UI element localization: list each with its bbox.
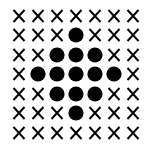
grid-cell-r4-c3[interactable] [66,84,85,104]
grid-cell-r0-c4[interactable] [85,6,104,26]
cross-icon [106,8,122,24]
grid-cell-r2-c2[interactable] [47,45,66,65]
cross-icon [106,125,122,141]
grid-cell-r1-c0[interactable] [9,26,28,46]
cross-icon [125,105,141,121]
grid-cell-r5-c4[interactable] [85,104,104,124]
cross-icon [87,27,103,43]
grid-cell-r1-c1[interactable] [28,26,47,46]
grid-cell-r3-c0[interactable] [9,65,28,85]
grid-cell-r6-c4[interactable] [85,123,104,143]
grid-cell-r1-c4[interactable] [85,26,104,46]
dot-icon [106,66,122,82]
grid-cell-r2-c6[interactable] [123,45,142,65]
grid-cell-r6-c3[interactable] [66,123,85,143]
grid-cell-r6-c2[interactable] [47,123,66,143]
grid-cell-r2-c1[interactable] [28,45,47,65]
grid-cell-r1-c5[interactable] [104,26,123,46]
cross-icon [87,8,103,24]
cross-icon [125,66,141,82]
dot-icon [68,47,84,63]
cross-icon [125,8,141,24]
dot-icon [87,86,103,102]
cross-icon [49,27,65,43]
cross-icon [11,66,27,82]
grid-cell-r3-c4[interactable] [85,65,104,85]
grid-cell-r6-c1[interactable] [28,123,47,143]
dot-icon [49,66,65,82]
cross-icon [30,47,46,63]
cross-icon [30,105,46,121]
cross-icon [125,125,141,141]
grid-cell-r0-c3[interactable] [66,6,85,26]
grid-cell-r6-c5[interactable] [104,123,123,143]
cross-icon [125,47,141,63]
cross-icon [11,86,27,102]
grid-cell-r0-c0[interactable] [9,6,28,26]
cross-icon [49,8,65,24]
cross-icon [30,125,46,141]
grid-cell-r4-c6[interactable] [123,84,142,104]
cross-icon [68,125,84,141]
grid-cell-r2-c5[interactable] [104,45,123,65]
cross-icon [106,27,122,43]
cross-icon [87,105,103,121]
dot-icon [30,66,46,82]
grid-cell-r0-c6[interactable] [123,6,142,26]
cross-icon [68,8,84,24]
grid-cell-r2-c4[interactable] [85,45,104,65]
cross-icon [11,8,27,24]
cross-icon [125,27,141,43]
cross-icon [30,86,46,102]
dot-icon [68,86,84,102]
grid-cell-r5-c0[interactable] [9,104,28,124]
grid-cell-r3-c2[interactable] [47,65,66,85]
grid-cell-r4-c0[interactable] [9,84,28,104]
grid-cell-r4-c1[interactable] [28,84,47,104]
dot-icon [49,86,65,102]
grid-cell-r5-c2[interactable] [47,104,66,124]
grid-cell-r3-c3[interactable] [66,65,85,85]
grid-cell-r6-c6[interactable] [123,123,142,143]
grid-cell-r5-c3[interactable] [66,104,85,124]
grid-cell-r3-c1[interactable] [28,65,47,85]
grid-cell-r4-c5[interactable] [104,84,123,104]
cross-icon [30,27,46,43]
grid-cell-r3-c6[interactable] [123,65,142,85]
cross-icon [11,125,27,141]
cross-icon [49,125,65,141]
peg-grid [9,6,142,143]
grid-cell-r6-c0[interactable] [9,123,28,143]
cross-icon [106,86,122,102]
grid-cell-r5-c6[interactable] [123,104,142,124]
grid-cell-r4-c4[interactable] [85,84,104,104]
cross-icon [106,47,122,63]
grid-cell-r1-c2[interactable] [47,26,66,46]
cross-icon [11,27,27,43]
grid-cell-r1-c3[interactable] [66,26,85,46]
cross-icon [49,105,65,121]
grid-cell-r2-c3[interactable] [66,45,85,65]
dot-icon [49,47,65,63]
cross-icon [106,105,122,121]
dot-icon [87,47,103,63]
grid-cell-r0-c2[interactable] [47,6,66,26]
cross-icon [30,8,46,24]
grid-cell-r0-c5[interactable] [104,6,123,26]
cross-icon [11,47,27,63]
grid-cell-r4-c2[interactable] [47,84,66,104]
cross-icon [125,86,141,102]
dot-icon [68,66,84,82]
grid-cell-r1-c6[interactable] [123,26,142,46]
cross-icon [87,125,103,141]
grid-cell-r2-c0[interactable] [9,45,28,65]
dot-icon [68,105,84,121]
grid-cell-r5-c1[interactable] [28,104,47,124]
grid-cell-r3-c5[interactable] [104,65,123,85]
cross-icon [11,105,27,121]
dot-icon [68,27,84,43]
grid-cell-r0-c1[interactable] [28,6,47,26]
dot-icon [87,66,103,82]
grid-cell-r5-c5[interactable] [104,104,123,124]
